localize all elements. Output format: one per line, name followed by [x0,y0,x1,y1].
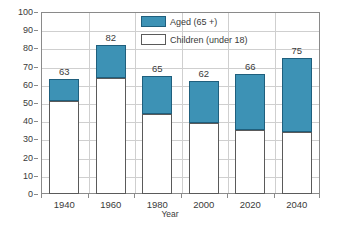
bar-column: 63 [49,12,79,194]
x-axis-tick-label: 2040 [286,200,307,210]
legend-label: Aged (65 +) [170,17,217,27]
bar-total-label: 75 [268,46,326,56]
bar-column: 75 [282,12,312,194]
x-axis-tick-mark [319,194,320,198]
x-axis-tick-label: 2000 [193,200,214,210]
y-axis-tick-label: 100 [18,8,33,17]
y-axis: 1009080706050403020100 [0,12,38,194]
y-axis-tick-mark [34,176,38,177]
bar-total-label: 63 [35,67,93,77]
bar-segment-children [142,114,172,194]
y-axis-tick-label: 80 [23,44,33,53]
y-axis-tick-label: 30 [23,135,33,144]
bar-segment-aged [282,58,312,133]
legend-swatch-children [141,34,166,45]
legend-entry: Children (under 18) [141,32,271,47]
y-axis-tick-mark [34,103,38,104]
y-axis-tick-label: 40 [23,117,33,126]
x-axis-tick-mark [274,194,275,198]
x-axis-tick-mark [181,194,182,198]
x-axis-tick-label: 1960 [100,200,121,210]
bar-segment-children [282,132,312,194]
legend-entry: Aged (65 +) [141,14,271,29]
bar-segment-children [96,78,126,194]
x-axis-tick-mark [88,194,89,198]
y-axis-tick-mark [34,121,38,122]
x-axis-tick-label: 1940 [54,200,75,210]
y-axis-tick-mark [34,194,38,195]
bar-segment-children [235,130,265,194]
x-axis-tick-mark [134,194,135,198]
bar-segment-aged [235,74,265,130]
bar-segment-children [189,123,219,194]
x-axis-title: Year [0,210,340,219]
y-axis-tick-mark [34,139,38,140]
bar-segment-children [49,101,79,194]
chart-legend: Aged (65 +)Children (under 18) [141,14,271,50]
bar-total-label: 66 [221,62,279,72]
bar-segment-aged [49,79,79,101]
x-axis-tick-mark [41,194,42,198]
bar-segment-aged [142,76,172,114]
y-axis-tick-label: 20 [23,153,33,162]
y-axis-tick-label: 10 [23,171,33,180]
legend-swatch-aged [141,16,166,27]
y-axis-tick-mark [34,48,38,49]
y-axis-tick-mark [34,30,38,31]
bar-column: 82 [96,12,126,194]
y-axis-tick-mark [34,158,38,159]
y-axis-tick-label: 90 [23,26,33,35]
y-axis-tick-label: 60 [23,80,33,89]
bar-total-label: 82 [82,33,140,43]
y-axis-tick-mark [34,85,38,86]
y-axis-tick-label: 70 [23,62,33,71]
y-axis-tick-label: 0 [28,190,33,199]
bar-segment-aged [189,81,219,123]
x-axis-tick-label: 2020 [240,200,261,210]
x-axis-tick-mark [227,194,228,198]
bar-segment-aged [96,45,126,78]
y-axis-tick-label: 50 [23,99,33,108]
legend-label: Children (under 18) [170,35,248,45]
stacked-bar-chart: 1009080706050403020100 638265626675 Aged… [0,0,340,229]
y-axis-tick-mark [34,12,38,13]
